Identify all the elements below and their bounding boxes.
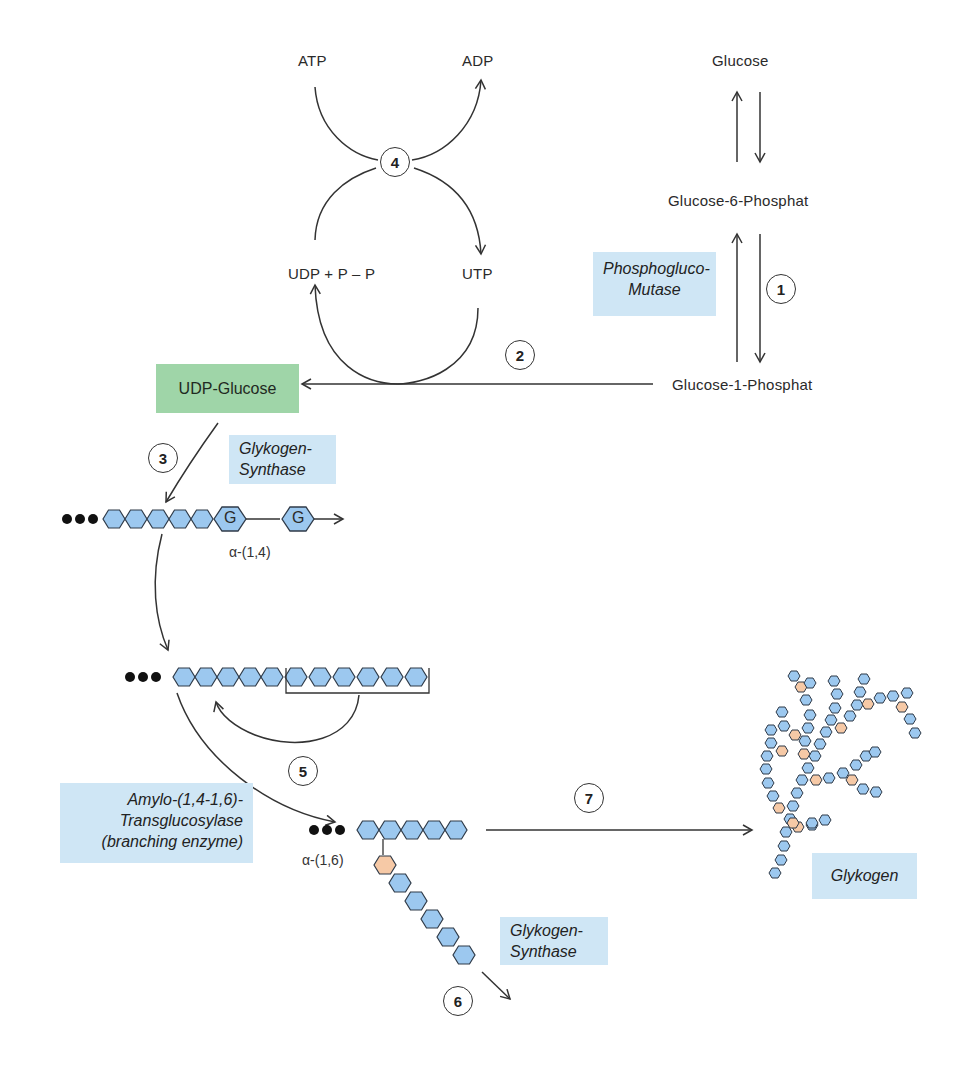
udp-ppi-label: UDP + P – P [288, 265, 375, 282]
glycogen-tree-icon [760, 671, 921, 878]
udp-glucose-box: UDP-Glucose [156, 364, 299, 413]
glucose-unit-label: G [292, 509, 305, 527]
glucose-6-phosphate-label: Glucose-6-Phosphat [668, 192, 808, 209]
glucose-chain-2 [125, 668, 429, 693]
udp-glucose-label: UDP-Glucose [179, 380, 277, 398]
glucose-label: Glucose [712, 52, 768, 69]
utp-label: UTP [462, 265, 493, 282]
glycogen-synthase-box-2: Glykogen- Synthase [500, 917, 608, 965]
alpha-1-4-bond-label: α-(1,4) [229, 544, 271, 560]
glucose-unit-label: G [224, 509, 237, 527]
step-1-badge: 1 [766, 274, 796, 304]
enzyme-label: Synthase [239, 459, 326, 480]
enzyme-label: (branching enzyme) [70, 831, 243, 852]
step-5-badge: 5 [288, 756, 318, 786]
step-7-badge: 7 [574, 783, 604, 813]
phosphoglucomutase-box: Phosphogluco- Mutase [593, 252, 716, 316]
glycogen-label: Glykogen [831, 867, 899, 884]
step-3-badge: 3 [148, 443, 178, 473]
enzyme-label: Phosphogluco- [603, 258, 706, 279]
diagram-canvas [0, 0, 967, 1067]
glycogen-synthase-box-1: Glykogen- Synthase [229, 435, 336, 484]
alpha-1-6-bond-label: α-(1,6) [302, 852, 344, 868]
enzyme-label: Amylo-(1,4-1,6)- [70, 789, 243, 810]
enzyme-label: Glykogen- [510, 920, 598, 941]
glucose-chain-1 [62, 507, 314, 531]
enzyme-label: Synthase [510, 941, 598, 962]
enzyme-label: Glykogen- [239, 438, 326, 459]
branching-enzyme-box: Amylo-(1,4-1,6)- Transglucosylase (branc… [60, 783, 253, 863]
enzyme-label: Mutase [603, 279, 706, 300]
glucose-1-phosphate-label: Glucose-1-Phosphat [672, 376, 812, 393]
branched-chain [309, 821, 475, 964]
step-2-badge: 2 [505, 340, 535, 370]
adp-label: ADP [462, 52, 493, 69]
step-6-badge: 6 [443, 986, 473, 1016]
enzyme-label: Transglucosylase [70, 810, 243, 831]
glycogen-box: Glykogen [812, 853, 917, 899]
atp-label: ATP [298, 52, 327, 69]
step-4-badge: 4 [380, 147, 410, 177]
